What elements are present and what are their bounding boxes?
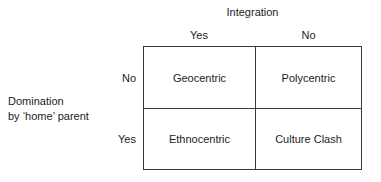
column-header-yes: Yes	[143, 28, 255, 42]
matrix-grid: Geocentric Polycentric Ethnocentric Cult…	[143, 46, 362, 170]
matrix-cell-polycentric: Polycentric	[256, 47, 361, 109]
row-axis-title: Domination by ‘home’ parent	[8, 94, 112, 123]
matrix-cell-ethnocentric: Ethnocentric	[144, 109, 256, 169]
row-axis-title-line-1: Domination	[8, 94, 112, 109]
column-axis-title: Integration	[143, 5, 362, 19]
column-header-no: No	[255, 28, 362, 42]
row-header-no: No	[96, 71, 136, 85]
matrix-cell-culture-clash: Culture Clash	[256, 109, 361, 169]
row-header-yes: Yes	[96, 132, 136, 146]
row-axis-title-line-2: by ‘home’ parent	[8, 109, 112, 124]
matrix-cell-geocentric: Geocentric	[144, 47, 256, 109]
two-by-two-matrix-diagram: Integration Yes No Domination by ‘home’ …	[0, 0, 381, 182]
